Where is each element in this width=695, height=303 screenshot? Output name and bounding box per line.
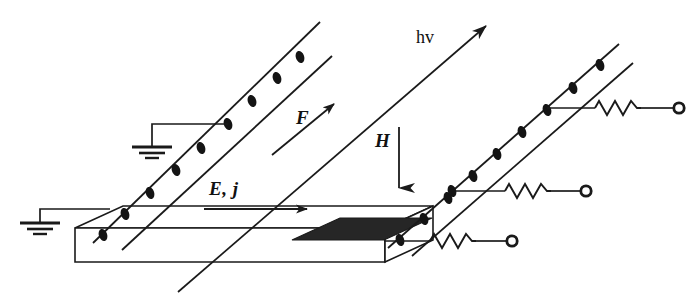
diagram-svg <box>0 0 695 303</box>
open-terminal-icon <box>507 236 517 246</box>
resistor-icon <box>505 184 551 198</box>
right-rail <box>388 44 633 256</box>
ground-connection-upper <box>132 124 228 158</box>
resistor-icon <box>595 101 641 115</box>
resistor-tap-middle <box>446 184 591 198</box>
open-terminal-icon <box>674 103 684 113</box>
resistor-tap-upper <box>547 101 684 115</box>
right-rail-carriers <box>394 58 606 247</box>
label-current-field: E, j <box>209 179 238 198</box>
open-terminal-icon <box>581 186 591 196</box>
diagram-canvas: E, j F H hv <box>0 0 695 303</box>
resistor-icon <box>430 234 476 248</box>
ground-icon <box>132 147 172 158</box>
ground-lead <box>152 124 228 146</box>
label-force: F <box>296 108 309 127</box>
label-photon: hv <box>416 28 434 46</box>
ground-icon <box>20 223 60 234</box>
label-magnetic-field: H <box>375 131 390 150</box>
